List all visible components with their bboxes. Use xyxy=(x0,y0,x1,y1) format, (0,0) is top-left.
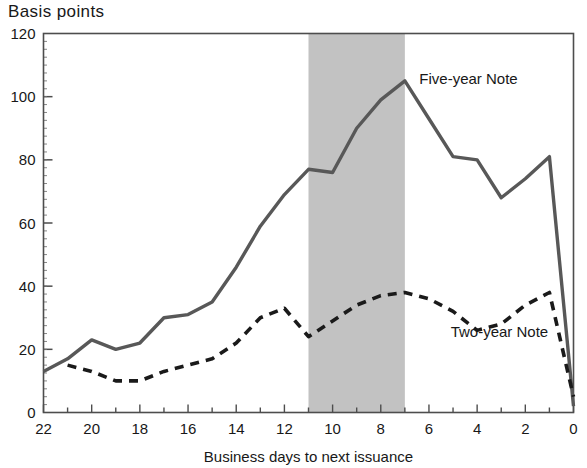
line-chart-plot: 2220181614121086420 020406080100120 Five… xyxy=(0,0,587,468)
x-tick-label: 2 xyxy=(521,420,529,437)
chart-figure: Basis points 2220181614121086420 0204060… xyxy=(0,0,587,468)
series-annotations: Five-year NoteTwo-year Note xyxy=(419,70,548,340)
x-axis-tick-labels: 2220181614121086420 xyxy=(35,420,578,437)
y-tick-label: 80 xyxy=(19,151,36,168)
x-tick-label: 12 xyxy=(276,420,293,437)
y-tick-label: 60 xyxy=(19,215,36,232)
y-tick-label: 0 xyxy=(27,404,35,421)
x-tick-label: 14 xyxy=(228,420,245,437)
y-tick-label: 120 xyxy=(10,25,35,42)
series-label: Two-year Note xyxy=(451,323,549,340)
x-tick-label: 0 xyxy=(569,420,577,437)
x-tick-label: 10 xyxy=(324,420,341,437)
chart-title: Basis points xyxy=(8,2,104,22)
y-axis-tick-labels: 020406080100120 xyxy=(10,25,35,421)
x-tick-label: 8 xyxy=(377,420,385,437)
x-tick-label: 16 xyxy=(180,420,197,437)
x-axis-title: Business days to next issuance xyxy=(204,448,413,465)
series-label: Five-year Note xyxy=(419,70,517,87)
x-tick-label: 6 xyxy=(425,420,433,437)
y-tick-label: 20 xyxy=(19,341,36,358)
y-tick-label: 40 xyxy=(19,278,36,295)
x-tick-label: 4 xyxy=(473,420,481,437)
x-tick-label: 18 xyxy=(132,420,149,437)
x-tick-label: 22 xyxy=(35,420,52,437)
x-tick-label: 20 xyxy=(83,420,100,437)
y-tick-label: 100 xyxy=(10,88,35,105)
